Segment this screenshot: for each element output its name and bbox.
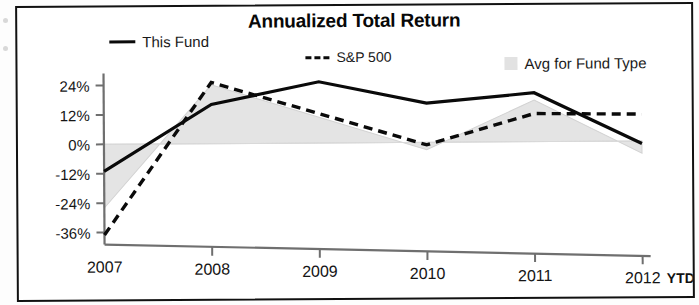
x-tick-label: 2010 bbox=[410, 265, 446, 282]
y-tick-label: 24% bbox=[60, 78, 90, 95]
y-tick-label: -36% bbox=[55, 225, 90, 242]
return-line-chart: 24%12%0%-12%-24%-36% 2007200820092010201… bbox=[17, 4, 693, 300]
y-tick-label: -12% bbox=[55, 166, 90, 183]
plot-area: 24%12%0%-12%-24%-36% 2007200820092010201… bbox=[17, 4, 693, 300]
x-tick-label: 2007 bbox=[87, 258, 123, 275]
x-tick-labels: 200720082009201020112012 bbox=[87, 255, 661, 290]
page-margin-artifact bbox=[3, 46, 8, 51]
x-axis bbox=[105, 241, 651, 267]
y-axis bbox=[96, 74, 105, 245]
y-tick-label: 12% bbox=[60, 107, 90, 124]
x-tick-label: 2012 bbox=[625, 269, 661, 286]
y-tick-labels: 24%12%0%-12%-24%-36% bbox=[55, 78, 91, 242]
scanned-page: Annualized Total Return This Fund S&P 50… bbox=[0, 0, 699, 305]
series-line-sp500 bbox=[104, 80, 643, 235]
x-tick-label: 2008 bbox=[194, 261, 230, 278]
page-margin-artifact bbox=[3, 18, 8, 23]
chart-card: Annualized Total Return This Fund S&P 50… bbox=[15, 2, 695, 302]
avg-for-fund-type-area bbox=[104, 82, 643, 208]
y-tick-label: -24% bbox=[55, 195, 90, 212]
x-tick-label: 2009 bbox=[302, 263, 338, 280]
ytd-axis-note: YTD bbox=[667, 270, 693, 286]
y-tick-label: 0% bbox=[68, 136, 90, 153]
x-tick-label: 2011 bbox=[518, 267, 553, 284]
